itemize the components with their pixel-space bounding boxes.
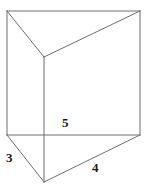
prism-figure: 3 4 5 bbox=[0, 0, 150, 192]
figure-background bbox=[0, 0, 150, 192]
edge-label-left-base: 3 bbox=[6, 151, 13, 164]
edge-label-right-base: 4 bbox=[92, 161, 99, 174]
prism-drawing bbox=[0, 0, 150, 192]
edge-label-height: 5 bbox=[62, 116, 69, 129]
